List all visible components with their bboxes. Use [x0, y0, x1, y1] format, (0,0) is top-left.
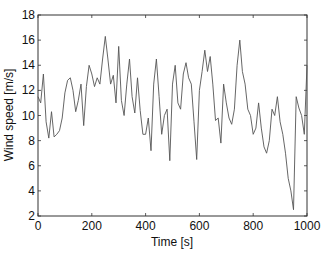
y-tick-label: 12	[22, 83, 36, 97]
x-tick-label: 400	[136, 219, 156, 233]
y-tick-label: 10	[22, 109, 36, 123]
y-tick-label: 18	[22, 8, 36, 22]
y-tick-label: 8	[28, 134, 35, 148]
x-tick-label: 800	[243, 219, 263, 233]
x-tick-label: 600	[189, 219, 209, 233]
y-tick-label: 16	[22, 33, 36, 47]
x-tick-label: 0	[35, 219, 42, 233]
x-axis-label: Time [s]	[151, 235, 193, 249]
y-tick-label: 6	[28, 159, 35, 173]
plot-area	[38, 15, 307, 216]
y-axis-label: Wind speed [m/s]	[2, 69, 16, 162]
x-tick-label: 1000	[294, 219, 321, 233]
y-tick-label: 4	[28, 184, 35, 198]
y-tick-label: 14	[22, 58, 36, 72]
x-tick-label: 200	[82, 219, 102, 233]
line-chart: 24681012141618 02004006008001000 Time [s…	[0, 0, 325, 253]
